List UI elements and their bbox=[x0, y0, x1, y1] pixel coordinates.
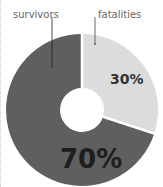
survivors-label: survivors bbox=[13, 9, 59, 20]
fatalities-percent: 30% bbox=[110, 71, 144, 87]
fatalities-label: fatalities bbox=[98, 9, 141, 20]
donut-chart: survivors fatalities 30% 70% bbox=[0, 0, 163, 187]
survivors-percent: 70% bbox=[60, 144, 122, 174]
fatalities-callout-dot bbox=[94, 43, 96, 45]
